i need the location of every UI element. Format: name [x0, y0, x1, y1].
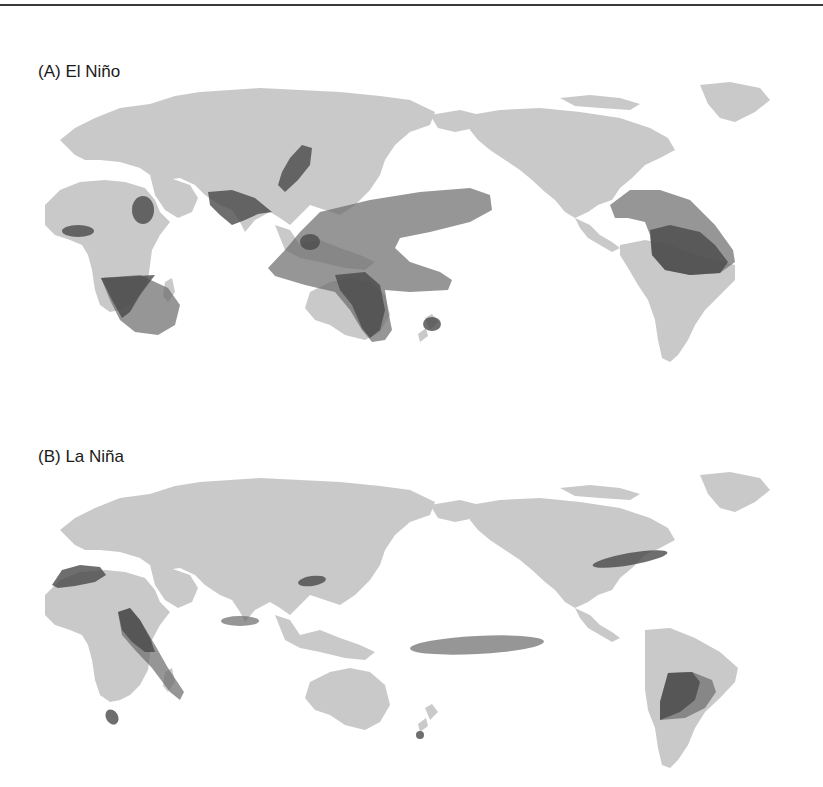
land-masses: [45, 472, 770, 768]
panel-el-nino: (A) El Niño: [0, 0, 823, 430]
zone-new-zealand: [416, 731, 424, 739]
zone-west-africa: [62, 225, 94, 237]
zone-south-africa: [103, 707, 121, 727]
world-map-el-nino: [0, 0, 823, 430]
zone-sri-lanka: [221, 616, 259, 626]
zone-new-zealand: [423, 317, 441, 331]
zone-central-pacific: [410, 633, 545, 658]
zone-ethiopia: [132, 196, 154, 224]
panel-la-nina: (B) La Niña: [0, 430, 823, 787]
zone-borneo: [300, 234, 320, 250]
world-map-la-nina: [0, 430, 823, 787]
